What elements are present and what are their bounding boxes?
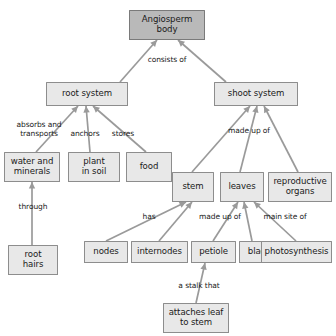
edge-label-absorbs-and-transports: absorbs andtransports [6, 121, 72, 138]
node-plant-in-soil[interactable]: plantin soil [68, 152, 120, 182]
node-label: attaches leafto stem [167, 308, 226, 327]
arrowhead [179, 202, 186, 208]
cropped-title-text [0, 0, 336, 7]
node-petiole[interactable]: petiole [191, 241, 236, 263]
arrowhead [264, 106, 270, 113]
node-label: Angiospermbody [140, 15, 194, 34]
arrowhead [252, 106, 258, 113]
node-food[interactable]: food [126, 152, 172, 182]
arrowhead [200, 263, 206, 270]
arrowhead [243, 106, 250, 113]
edge-shoot-system-to-leaves [240, 106, 258, 172]
arrowhead [178, 40, 185, 47]
arrowhead [71, 106, 78, 113]
node-label: stem [180, 182, 205, 192]
arrowhead [242, 202, 248, 209]
node-label: shoot system [226, 89, 286, 99]
node-label: photosynthesis [263, 247, 331, 257]
node-attaches-leaf-to-stem[interactable]: attaches leafto stem [163, 303, 229, 333]
node-internodes[interactable]: internodes [131, 241, 188, 263]
edge-label-stores: stores [106, 130, 140, 139]
edge-label-has: has [138, 213, 160, 222]
arrowhead [254, 202, 261, 209]
edge-label-made-up-of-leaves: made up of [191, 213, 249, 222]
node-label: petiole [197, 247, 230, 257]
node-root-hairs[interactable]: roothairs [8, 245, 58, 275]
node-angiosperm-body[interactable]: Angiospermbody [129, 10, 205, 40]
edge-label-a-stalk-that: a stalk that [171, 282, 227, 291]
node-water-and-minerals[interactable]: water andminerals [4, 152, 60, 182]
arrowhead [232, 202, 238, 209]
edge-stem-to-internodes [159, 202, 192, 241]
node-reproductive-organs[interactable]: reproductiveorgans [268, 172, 332, 202]
node-shoot-system[interactable]: shoot system [214, 82, 298, 106]
arrowhead [185, 202, 192, 209]
node-label: reproductiveorgans [271, 177, 328, 196]
node-nodes[interactable]: nodes [84, 241, 128, 263]
edge-label-anchors: anchors [66, 130, 104, 139]
arrowhead [83, 106, 89, 113]
node-label: internodes [135, 247, 184, 257]
edge-water-to-root-hairs [29, 182, 35, 245]
edge-shoot-system-to-reproductive [264, 106, 298, 172]
node-label: plantin soil [80, 157, 108, 176]
arrowhead [29, 182, 35, 189]
arrowhead [93, 106, 100, 113]
node-label: leaves [226, 182, 257, 192]
node-label: nodes [91, 247, 120, 257]
node-root-system[interactable]: root system [46, 82, 128, 106]
node-stem[interactable]: stem [172, 172, 214, 202]
edge-label-through: through [12, 203, 54, 212]
edge-label-made-up-of-shoot: made up of [219, 127, 279, 136]
edge-shoot-system-to-stem [192, 106, 250, 172]
arrowhead [150, 40, 157, 47]
node-label: roothairs [21, 250, 46, 269]
edge-label-main-site-of: main site of [256, 213, 314, 222]
node-photosynthesis[interactable]: photosynthesis [261, 241, 332, 263]
node-label: root system [60, 89, 114, 99]
node-label: water andminerals [9, 157, 55, 176]
concept-map-diagram: Angiospermbodyroot systemshoot systemwat… [0, 0, 336, 336]
node-leaves[interactable]: leaves [220, 172, 264, 202]
node-label: food [138, 162, 161, 172]
edge-label-consists-of: consists of [132, 56, 202, 65]
